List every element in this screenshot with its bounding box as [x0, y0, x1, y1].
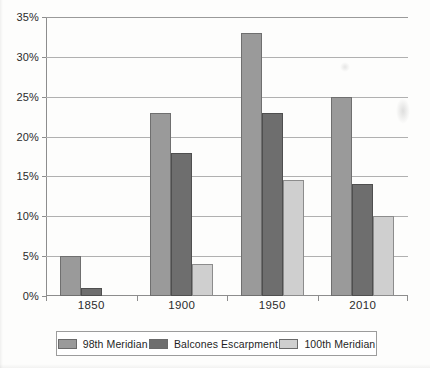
- scan-edge-shadow-left: [0, 0, 3, 368]
- bar-chart: 0%5%10%15%20%25%30%35% 1850190019502010 …: [0, 0, 430, 368]
- x-axis-labels: 1850190019502010: [46, 299, 408, 317]
- scan-edge-shadow-bottom: [0, 364, 430, 368]
- bar-group: [137, 17, 228, 296]
- legend-swatch-icon: [149, 339, 168, 349]
- x-axis-label: 2010: [318, 299, 409, 317]
- x-axis-label: 1850: [46, 299, 137, 317]
- x-axis-label: 1950: [227, 299, 318, 317]
- legend-entry[interactable]: 98th Meridian: [58, 338, 148, 350]
- bar: [102, 295, 123, 296]
- bar: [150, 113, 171, 296]
- legend-swatch-icon: [58, 339, 77, 349]
- bar: [373, 216, 394, 296]
- bar-group: [227, 17, 318, 296]
- bar-group: [46, 17, 137, 296]
- bar: [283, 180, 304, 296]
- chart-legend: 98th MeridianBalcones Escarpment100th Me…: [56, 331, 377, 356]
- legend-swatch-icon: [279, 339, 298, 349]
- bar: [262, 113, 283, 296]
- bar: [60, 256, 81, 296]
- bar: [81, 288, 102, 296]
- legend-label: Balcones Escarpment: [174, 338, 278, 350]
- bar: [331, 97, 352, 296]
- legend-label: 100th Meridian: [304, 338, 375, 350]
- bar: [171, 153, 192, 296]
- plot-area: 0%5%10%15%20%25%30%35%: [46, 17, 408, 296]
- legend-entry[interactable]: Balcones Escarpment: [149, 338, 278, 350]
- bar-groups: [46, 17, 408, 296]
- bar: [352, 184, 373, 296]
- bar-group: [318, 17, 409, 296]
- legend-label: 98th Meridian: [83, 338, 148, 350]
- bar: [241, 33, 262, 296]
- legend-entry[interactable]: 100th Meridian: [279, 338, 375, 350]
- bar: [192, 264, 213, 296]
- x-axis-label: 1900: [137, 299, 228, 317]
